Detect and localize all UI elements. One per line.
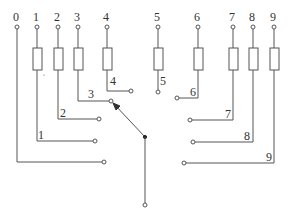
terminal-label-3: 3 — [74, 10, 80, 24]
terminal-label-4: 4 — [103, 10, 109, 24]
wire-7: 7 — [188, 29, 233, 122]
resistor-8 — [249, 48, 258, 70]
switch-diagram: 0 1 2 3 4 5 6 7 8 9 1 — [0, 0, 291, 220]
contact-label-1: 1 — [38, 128, 44, 142]
contact-label-8: 8 — [244, 129, 250, 143]
stray-dot — [43, 74, 44, 75]
contact-label-5: 5 — [160, 74, 166, 88]
wire-8: 8 — [191, 29, 253, 144]
terminal-label-9: 9 — [270, 10, 276, 24]
wire-1: 1 — [37, 29, 97, 143]
resistor-5 — [154, 48, 163, 70]
contact-label-3: 3 — [88, 87, 94, 101]
terminal-label-6: 6 — [194, 10, 200, 24]
wire-2: 2 — [58, 29, 101, 121]
contact-label-9: 9 — [266, 150, 272, 164]
top-terminals — [15, 25, 276, 29]
contact-label-4: 4 — [110, 74, 116, 88]
terminal-label-5: 5 — [154, 10, 160, 24]
terminal-label-8: 8 — [249, 10, 255, 24]
contact-label-2: 2 — [60, 106, 66, 120]
resistor-2 — [54, 48, 63, 70]
resistor-7 — [229, 48, 238, 70]
terminal-label-0: 0 — [13, 10, 19, 24]
resistor-3 — [74, 48, 83, 70]
contact-label-7: 7 — [225, 107, 231, 121]
terminal-label-1: 1 — [33, 10, 39, 24]
terminal-label-7: 7 — [229, 10, 235, 24]
wiper-arm — [113, 103, 147, 207]
resistor-1 — [33, 48, 42, 70]
contact-label-6: 6 — [190, 85, 196, 99]
resistor-9 — [270, 48, 279, 70]
resistor-6 — [194, 48, 203, 70]
terminal-label-2: 2 — [54, 10, 60, 24]
resistors — [33, 48, 279, 70]
resistor-4 — [103, 48, 112, 70]
common-terminal — [143, 203, 147, 207]
